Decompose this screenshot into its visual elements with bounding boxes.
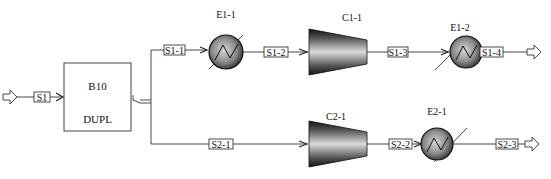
stream-s2-1[interactable]: S2-1: [209, 139, 233, 150]
block-label-e1-1: E1-1: [216, 9, 235, 20]
block-name-b10: B10: [88, 80, 107, 92]
stream-line-s1-1: [151, 50, 207, 103]
stream-label-s1-4: S1-4: [482, 47, 501, 58]
compressor-c2-1[interactable]: [309, 121, 367, 167]
block-label-c2-1: C2-1: [326, 111, 346, 122]
stream-s2-3[interactable]: S2-3: [496, 139, 518, 150]
stream-s1-1[interactable]: S1-1: [164, 45, 185, 56]
flowsheet-canvas: S1 B10 DUPL S1-1 E1-1 S1-2 C1-1 S1-3: [0, 0, 551, 179]
stream-s1-3[interactable]: S1-3: [388, 47, 408, 58]
heat-exchanger-e1-1[interactable]: [209, 35, 243, 69]
stream-s1[interactable]: S1: [34, 92, 50, 103]
block-label-e2-1: E2-1: [427, 106, 446, 117]
block-label-c1-1: C1-1: [342, 12, 362, 23]
stream-label-s1-2: S1-2: [267, 47, 286, 58]
product-arrow-icon: [527, 45, 541, 59]
heat-exchanger-e1-2[interactable]: [435, 36, 482, 70]
feed-arrow-icon: [3, 90, 17, 104]
stream-s1-4[interactable]: S1-4: [480, 47, 503, 58]
stream-label-s2-1: S2-1: [212, 139, 231, 150]
stream-label-s1-1: S1-1: [165, 45, 184, 56]
stream-s1-2[interactable]: S1-2: [264, 47, 288, 58]
stream-label-s1: S1: [37, 92, 48, 103]
compressor-c1-1[interactable]: [309, 29, 367, 75]
block-label-e1-2: E1-2: [450, 22, 469, 33]
product-arrow-icon: [525, 137, 539, 151]
stream-label-s2-3: S2-3: [498, 139, 517, 150]
block-b10[interactable]: B10 DUPL: [64, 63, 131, 131]
stream-s2-2[interactable]: S2-2: [389, 139, 412, 150]
stream-label-s2-2: S2-2: [391, 139, 410, 150]
stream-label-s1-3: S1-3: [389, 47, 408, 58]
block-type-b10: DUPL: [83, 113, 112, 125]
heat-exchanger-e2-1[interactable]: [421, 128, 467, 162]
